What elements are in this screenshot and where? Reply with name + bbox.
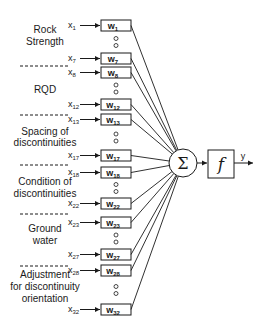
- input-label: x27: [68, 249, 80, 260]
- weight-connection: [131, 105, 174, 153]
- summation-node: Σ: [169, 149, 197, 177]
- group-label: for discontinuity: [10, 281, 79, 292]
- ellipsis-dot: [114, 240, 118, 244]
- ellipsis-dot: [114, 132, 118, 136]
- input-label: x17: [68, 150, 80, 161]
- group-label: Adjustment: [20, 269, 70, 280]
- ellipsis-dot: [114, 44, 118, 48]
- ellipsis-dot: [114, 90, 118, 94]
- activation-node: f: [208, 150, 234, 178]
- group-label: RQD: [34, 84, 56, 95]
- ellipsis-dot: [114, 183, 118, 187]
- group-label: discontinuities: [14, 137, 77, 148]
- weight-connection: [131, 59, 177, 151]
- input-label: x18: [68, 167, 80, 178]
- group-label: Spacing of: [21, 126, 68, 137]
- ellipsis-dot: [114, 37, 118, 41]
- weight-connection: [131, 166, 169, 173]
- group-label: Rock: [34, 24, 58, 35]
- input-label: x12: [68, 99, 80, 110]
- weight-connection: [131, 156, 169, 162]
- ellipsis-dot: [114, 285, 118, 289]
- weight-connection: [131, 120, 172, 155]
- group-label: Strength: [26, 36, 64, 47]
- neuron-diagram: RockStrengthx1w1x7w7RQDx8w8x12w12Spacing…: [0, 0, 261, 325]
- group-label: discontinuities: [14, 188, 77, 199]
- input-label: x28: [68, 265, 80, 276]
- group-label: orientation: [22, 293, 69, 304]
- output-label: y: [241, 151, 246, 161]
- weight-connection: [131, 176, 177, 271]
- ellipsis-dot: [114, 190, 118, 194]
- input-group: Spacing ofdiscontinuitiesx13w13x17w17: [14, 114, 173, 162]
- group-label: water: [32, 235, 58, 246]
- ellipsis-dot: [114, 139, 118, 143]
- input-label: x22: [68, 198, 80, 209]
- input-label: x7: [68, 53, 77, 64]
- input-label: x1: [68, 20, 77, 31]
- input-label: x8: [68, 67, 77, 78]
- ellipsis-dot: [114, 83, 118, 87]
- ellipsis-dot: [114, 233, 118, 237]
- sigma-symbol: Σ: [177, 154, 188, 173]
- ellipsis-dot: [114, 292, 118, 296]
- input-label: x23: [68, 217, 80, 228]
- input-label: x13: [68, 114, 80, 125]
- group-label: Condition of: [18, 176, 72, 187]
- input-label: x32: [68, 304, 80, 315]
- group-label: Ground: [28, 223, 61, 234]
